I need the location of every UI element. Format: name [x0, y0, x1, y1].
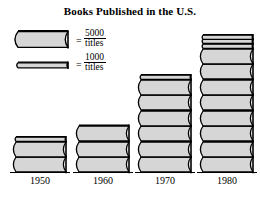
year-label-1960: 1960 — [71, 175, 135, 186]
stack-1980 — [199, 0, 260, 201]
stack-1960 — [75, 0, 137, 201]
thin-book — [137, 73, 197, 82]
year-label-1970: 1970 — [133, 175, 197, 186]
pictograph-chart: Books Published in the U.S. = 5000 title… — [0, 0, 260, 201]
baseline-1950 — [10, 172, 70, 173]
thin-book — [199, 33, 259, 42]
stack-1950 — [12, 0, 74, 201]
baseline-1970 — [135, 172, 195, 173]
baseline-1960 — [73, 172, 133, 173]
thin-book — [12, 135, 72, 144]
year-label-1980: 1980 — [195, 175, 259, 186]
baseline-1980 — [197, 172, 257, 173]
year-label-1950: 1950 — [8, 175, 72, 186]
stack-1970 — [137, 0, 199, 201]
thick-book — [75, 123, 135, 143]
